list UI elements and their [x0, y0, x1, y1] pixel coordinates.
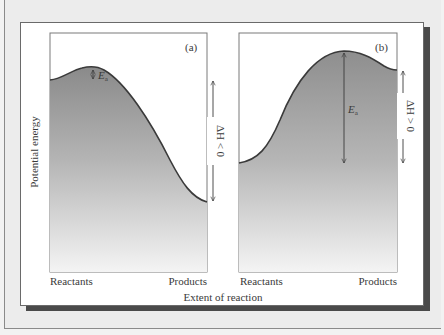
panel-b-enthalpy-label: ΔH > 0 — [405, 100, 417, 133]
panel-b-tag: (b) — [375, 41, 388, 54]
panel-b: Ea (b) ΔH > 0 Reactants Products — [239, 33, 417, 287]
panel-a-enthalpy-label: ΔH < 0 — [215, 125, 227, 158]
panel-a-reactants-label: Reactants — [50, 275, 93, 287]
energy-diagram: Ea (a) ΔH < 0 Reactants Products Ea (b) … — [0, 0, 444, 335]
panel-a-products-label: Products — [169, 275, 208, 287]
panel-b-reactants-label: Reactants — [240, 275, 283, 287]
panel-a-tag: (a) — [185, 41, 198, 54]
y-axis-title: Potential energy — [28, 116, 40, 188]
panel-a: Ea (a) ΔH < 0 Reactants Products — [50, 33, 227, 287]
x-axis-title: Extent of reaction — [184, 291, 263, 303]
panel-b-products-label: Products — [359, 275, 398, 287]
